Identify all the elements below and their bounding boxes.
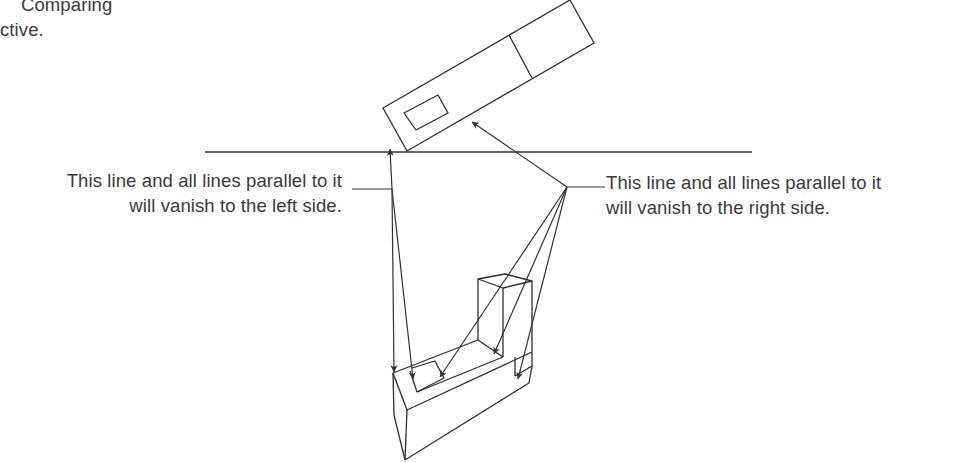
plan-inner-rect	[404, 95, 448, 130]
block-ledge-side	[410, 371, 417, 392]
arrow-to-plan-right-edge	[472, 122, 567, 187]
plan-divider	[509, 35, 532, 78]
block-front-edge	[405, 410, 407, 460]
block-top-left-end	[393, 373, 407, 410]
plan-view-object	[383, 0, 594, 151]
arrow-to-block-left-edge	[392, 189, 394, 372]
block-bottom-left	[394, 415, 405, 460]
block-top-back	[393, 340, 478, 373]
block-left-edge	[393, 373, 394, 415]
block-right-end-top	[515, 366, 532, 376]
arrow-to-cutout-left-edge	[392, 189, 413, 379]
arrow-to-plan-left-edge	[390, 149, 392, 189]
perspective-diagram	[0, 0, 954, 462]
perspective-block	[393, 274, 532, 460]
left-arrows	[390, 149, 413, 379]
block-bottom-right	[405, 383, 529, 460]
block-right-end-bottom	[529, 366, 532, 383]
